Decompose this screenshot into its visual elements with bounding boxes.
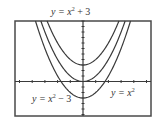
label-text: y = x [111,87,132,98]
label-tail: − 3 [56,93,72,104]
label-exponent: 2 [132,87,135,93]
label-text: y = x [51,6,72,17]
label-y-x2: y = x2 [111,87,135,98]
label-tail: + 3 [75,6,91,17]
graph-window [0,0,159,128]
label-y-x2-minus-3: y = x2 − 3 [32,93,71,104]
label-y-x2-plus-3: y = x2 + 3 [51,6,90,17]
label-text: y = x [32,93,53,104]
